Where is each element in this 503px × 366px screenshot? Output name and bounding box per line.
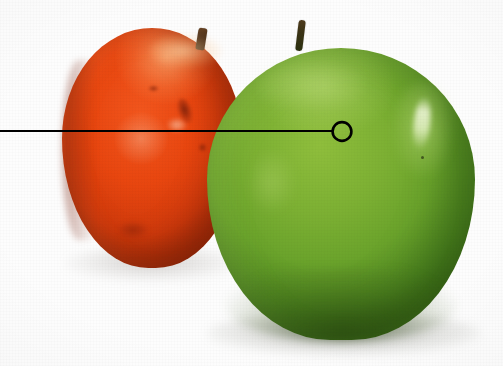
callout-circle-marker[interactable] [333,122,352,141]
image-canvas [0,0,503,366]
callout-overlay [0,0,503,366]
